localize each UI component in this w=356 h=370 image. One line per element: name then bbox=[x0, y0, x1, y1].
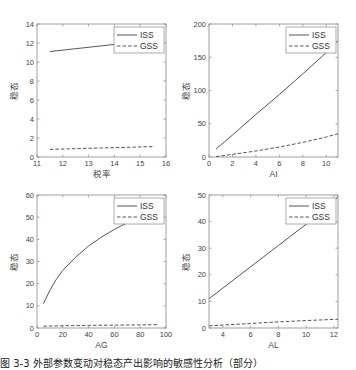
legend: ISSGSS bbox=[114, 27, 164, 53]
y-axis-label: 稳态 bbox=[181, 82, 191, 100]
x-axis-label: AL bbox=[268, 340, 279, 350]
legend: ISSGSS bbox=[286, 27, 336, 53]
subplot-2: 0246810050100150200AI稳态ISSGSS bbox=[181, 20, 338, 180]
subplot-4: 468101201020304050AL稳态ISSGSS bbox=[181, 191, 338, 351]
x-tick-label: 14 bbox=[110, 159, 118, 168]
x-tick-label: 13 bbox=[84, 159, 92, 168]
y-tick-label: 0 bbox=[202, 153, 206, 162]
x-tick-label: 10 bbox=[322, 159, 330, 168]
y-tick-label: 200 bbox=[193, 20, 206, 29]
x-tick-label: 6 bbox=[249, 330, 253, 339]
figure-caption: 图 3-3 外部参数变动对稳态产出影响的敏感性分析（部分） bbox=[0, 355, 356, 370]
y-tick-label: 100 bbox=[193, 86, 206, 95]
x-tick-label: 10 bbox=[302, 330, 310, 339]
y-tick-label: 2 bbox=[30, 134, 34, 143]
y-axis-label: 稳态 bbox=[181, 253, 191, 271]
y-tick-label: 40 bbox=[26, 235, 34, 244]
legend: ISSGSS bbox=[114, 198, 164, 224]
x-tick-label: 2 bbox=[230, 159, 234, 168]
x-tick-label: 4 bbox=[254, 159, 258, 168]
x-tick-label: 80 bbox=[136, 330, 144, 339]
y-tick-label: 0 bbox=[30, 153, 34, 162]
y-tick-label: 50 bbox=[26, 213, 34, 222]
legend-label-gss: GSS bbox=[312, 212, 330, 222]
x-tick-label: 100 bbox=[160, 330, 173, 339]
y-tick-label: 10 bbox=[26, 301, 34, 310]
y-tick-label: 0 bbox=[202, 324, 206, 333]
y-tick-label: 12 bbox=[26, 39, 34, 48]
y-tick-label: 50 bbox=[198, 191, 206, 200]
y-tick-label: 20 bbox=[198, 270, 206, 279]
y-axis-label: 稳态 bbox=[9, 82, 19, 100]
x-tick-label: 0 bbox=[35, 330, 39, 339]
x-axis-label: AI bbox=[269, 169, 277, 179]
x-tick-label: 12 bbox=[59, 159, 67, 168]
x-tick-label: 16 bbox=[162, 159, 170, 168]
x-tick-label: 11 bbox=[33, 159, 41, 168]
legend-label-iss: ISS bbox=[312, 30, 326, 40]
x-tick-label: 20 bbox=[59, 330, 67, 339]
legend-label-gss: GSS bbox=[140, 41, 158, 51]
subplot-1: 11121314151602468101214税率稳态ISSGSS bbox=[9, 20, 170, 180]
x-tick-label: 8 bbox=[301, 159, 305, 168]
x-axis-label: AG bbox=[95, 340, 107, 350]
y-tick-label: 30 bbox=[198, 244, 206, 253]
y-tick-label: 40 bbox=[198, 217, 206, 226]
legend-label-iss: ISS bbox=[140, 30, 154, 40]
x-tick-label: 40 bbox=[84, 330, 92, 339]
x-tick-label: 0 bbox=[207, 159, 211, 168]
y-tick-label: 30 bbox=[26, 257, 34, 266]
y-tick-label: 150 bbox=[193, 53, 206, 62]
y-tick-label: 0 bbox=[30, 324, 34, 333]
x-axis-label: 税率 bbox=[93, 169, 111, 179]
legend-label-gss: GSS bbox=[312, 41, 330, 51]
legend-label-iss: ISS bbox=[140, 201, 154, 211]
x-tick-label: 6 bbox=[277, 159, 281, 168]
y-tick-label: 10 bbox=[26, 58, 34, 67]
legend-label-iss: ISS bbox=[312, 201, 326, 211]
legend: ISSGSS bbox=[286, 198, 336, 224]
y-tick-label: 8 bbox=[30, 77, 34, 86]
subplot-3: 0204060801000102030405060AG稳态ISSGSS bbox=[9, 191, 172, 351]
y-tick-label: 20 bbox=[26, 279, 34, 288]
x-tick-label: 8 bbox=[276, 330, 280, 339]
y-tick-label: 4 bbox=[30, 115, 34, 124]
x-tick-label: 12 bbox=[330, 330, 338, 339]
y-axis-label: 稳态 bbox=[9, 253, 19, 271]
y-tick-label: 60 bbox=[26, 191, 34, 200]
x-tick-label: 60 bbox=[110, 330, 118, 339]
y-tick-label: 14 bbox=[26, 20, 34, 29]
y-tick-label: 50 bbox=[198, 119, 206, 128]
x-tick-label: 4 bbox=[221, 330, 225, 339]
legend-label-gss: GSS bbox=[140, 212, 158, 222]
x-tick-label: 15 bbox=[136, 159, 144, 168]
y-tick-label: 6 bbox=[30, 96, 34, 105]
y-tick-label: 10 bbox=[198, 297, 206, 306]
